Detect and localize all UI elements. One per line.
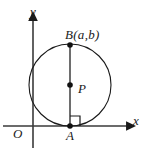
y-axis-label: y [30,5,36,18]
point-p-dot [67,82,73,88]
point-b-label: B(a,b) [65,28,100,41]
x-axis-label: x [133,114,139,127]
point-p-label: P [78,82,86,95]
point-b-dot [67,42,73,48]
origin-label: O [13,127,22,140]
point-a-label: A [66,129,74,142]
geometry-figure: y x O B(a,b) P A [0,0,147,152]
